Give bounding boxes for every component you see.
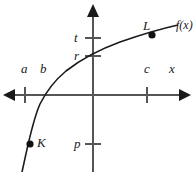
tick-label-t: t [74, 31, 78, 44]
x-axis-right-arrowhead [179, 89, 191, 101]
x-axis-left-arrowhead [3, 89, 15, 101]
tick-label-a: a [21, 62, 28, 75]
x-axis-label: x [169, 62, 175, 75]
tick-label-b: b [40, 62, 47, 75]
point-K-marker [26, 140, 33, 147]
curve-label-fx: f(x) [176, 19, 193, 31]
tick-label-c: c [144, 62, 150, 75]
graph-canvas [0, 0, 196, 172]
y-axis-top-arrowhead [87, 4, 99, 17]
tick-label-p: p [74, 137, 81, 150]
tick-label-r: r [74, 49, 79, 62]
point-label-L: L [143, 19, 150, 32]
point-label-K: K [37, 136, 46, 149]
math-graph-figure: a b c t r p x L K f(x) [0, 0, 196, 172]
